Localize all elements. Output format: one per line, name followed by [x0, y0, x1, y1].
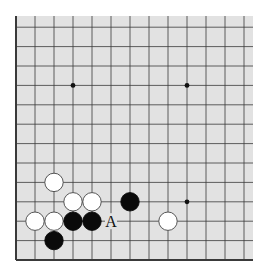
marker-label: A [105, 213, 117, 230]
black-stone [83, 212, 101, 230]
white-stone [45, 173, 63, 191]
white-stone [83, 193, 101, 211]
go-board: A [0, 0, 269, 275]
white-stone [159, 212, 177, 230]
markers: A [105, 213, 117, 230]
black-stone [45, 231, 63, 249]
star-point [185, 83, 190, 88]
star-point [185, 199, 190, 204]
white-stone [45, 212, 63, 230]
black-stone [121, 193, 139, 211]
white-stone [64, 193, 82, 211]
white-stone [26, 212, 44, 230]
black-stone [64, 212, 82, 230]
star-point [71, 83, 76, 88]
